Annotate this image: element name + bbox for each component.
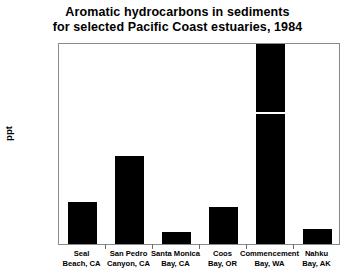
bar [209,207,238,244]
x-category-label-line: Nahku [286,249,347,259]
plot-area: 0.00.10.20.30.40.50.60.70.80.91.01.11.2 [58,43,340,245]
bar-chart: Aromatic hydrocarbons in sediments for s… [0,0,355,279]
x-category-label-line: Bay, AK [286,259,347,269]
bars-group [59,44,339,244]
x-category-label: NahkuBay, AK [286,249,347,268]
bar [256,43,285,244]
x-axis-category-labels: SealBeach, CASan PedroCanyon, CASanta Mo… [58,249,340,275]
chart-title: Aromatic hydrocarbons in sediments for s… [0,5,355,35]
bar [115,156,144,244]
bar [68,202,97,244]
bar [303,229,332,244]
bar-break-line [256,112,285,114]
y-axis-label: ppt [3,126,14,142]
chart-title-line-2: for selected Pacific Coast estuaries, 19… [0,20,355,35]
chart-title-line-1: Aromatic hydrocarbons in sediments [0,5,355,20]
bar [162,232,191,244]
